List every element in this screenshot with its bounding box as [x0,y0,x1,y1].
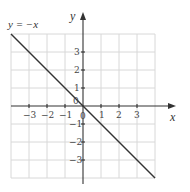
x-axis-label: x [169,110,176,124]
y-tick-label: 1 [74,83,80,93]
axes [11,12,176,184]
x-tick-label: 1 [99,110,105,120]
graph-canvas: y = −x y x −3 −2 −1 0 1 2 3 0 3 2 1 −1 −… [0,0,190,192]
x-tick-label: 3 [134,110,140,120]
origin-label: 0 [73,96,79,106]
y-axis-label: y [69,9,76,23]
x-axis-arrow-icon [168,103,176,109]
y-tick-label: −3 [69,155,83,165]
x-tick-label: 2 [116,110,122,120]
y-tick-label: 2 [74,65,80,75]
y-axis-arrow-icon [80,12,86,20]
y-tick-label: −1 [69,119,82,129]
x-tick-label: −3 [23,110,37,120]
y-tick-label: 3 [74,47,80,57]
equation-label: y = −x [7,18,38,30]
x-tick-label: −2 [41,110,54,120]
y-tick-label: −2 [69,137,82,147]
